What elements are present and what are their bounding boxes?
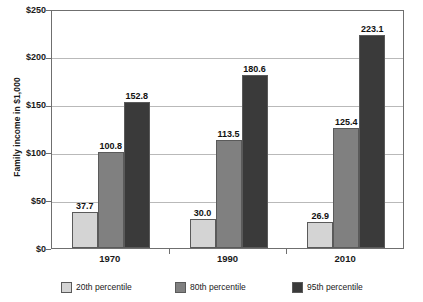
plot-area: 37.7100.8152.830.0113.5180.626.9125.4223… (51, 10, 404, 249)
bar: 26.9 (307, 222, 333, 248)
y-axis-tick-label: $200 (0, 53, 46, 62)
bar: 30.0 (190, 219, 216, 248)
legend-swatch (61, 282, 72, 293)
bar-value-label: 152.8 (126, 91, 149, 101)
x-axis-tick-mark (169, 249, 170, 254)
bar-value-label: 26.9 (311, 211, 329, 221)
bar-value-label: 113.5 (217, 129, 239, 139)
x-axis-category-label: 1990 (198, 253, 258, 265)
bar: 125.4 (333, 128, 359, 248)
x-axis-category-label: 1970 (80, 253, 140, 265)
y-axis-tick-label: $150 (0, 101, 46, 110)
bar-value-label: 30.0 (194, 208, 212, 218)
bar-value-label: 223.1 (361, 24, 384, 34)
legend-item: 20th percentile (61, 282, 132, 293)
y-axis-tick-label: $250 (0, 6, 46, 15)
legend-swatch (175, 282, 186, 293)
bar: 113.5 (216, 140, 242, 249)
bar-value-label: 37.7 (76, 201, 94, 211)
bar-chart: Family income in $1,000 $0$50$100$150$20… (0, 0, 423, 302)
legend-swatch (292, 282, 303, 293)
x-axis-tick-mark (286, 249, 287, 254)
bar-value-label: 100.8 (100, 141, 123, 151)
legend-label: 20th percentile (76, 282, 132, 292)
bar: 152.8 (124, 102, 150, 248)
legend-item: 80th percentile (175, 282, 246, 293)
y-axis-tick-label: $0 (0, 245, 46, 254)
gridline (52, 58, 403, 59)
bar-value-label: 125.4 (335, 117, 358, 127)
y-axis-tick-label: $100 (0, 149, 46, 158)
bar: 180.6 (242, 75, 268, 248)
y-axis-tick-label: $50 (0, 197, 46, 206)
gridline (52, 106, 403, 107)
legend-label: 80th percentile (190, 282, 246, 292)
legend-item: 95th percentile (292, 282, 363, 293)
bar: 223.1 (359, 35, 385, 248)
bar-value-label: 180.6 (243, 64, 266, 74)
chart-legend: 20th percentile80th percentile95th perce… (51, 279, 404, 295)
y-axis-tick-mark (46, 249, 51, 250)
legend-label: 95th percentile (307, 282, 363, 292)
bar: 37.7 (72, 212, 98, 248)
bar: 100.8 (98, 152, 124, 248)
x-axis-category-label: 2010 (315, 253, 375, 265)
